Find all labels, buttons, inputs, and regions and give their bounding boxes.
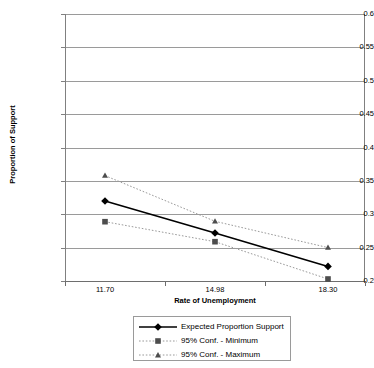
y-tick-mark-0.4 bbox=[61, 148, 65, 149]
legend-item-maximum[interactable]: 95% Conf. - Maximum bbox=[134, 348, 292, 362]
y-tick-mark-0.5 bbox=[61, 81, 65, 82]
chart-container: 0.6 0.55 0.5 0.45 0.4 0.35 0.3 0.25 0.2 … bbox=[0, 0, 374, 368]
x-tick-mark-1 bbox=[165, 281, 166, 286]
legend-item-expected[interactable]: Expected Proportion Support bbox=[134, 320, 292, 334]
y-tick-label-0.45: 0.45 bbox=[316, 110, 374, 118]
diamond-marker-icon bbox=[154, 323, 162, 331]
square-marker-icon bbox=[155, 338, 161, 344]
y-tick-label-0.35: 0.35 bbox=[316, 177, 374, 185]
x-tick-label-14.98: 14.98 bbox=[185, 285, 245, 294]
x-tick-mark-0 bbox=[65, 281, 66, 286]
y-tick-label-0.5: 0.5 bbox=[316, 77, 374, 85]
x-tick-label-18.30: 18.30 bbox=[298, 285, 358, 294]
y-tick-mark-0.45 bbox=[61, 114, 65, 115]
y-tick-mark-0.55 bbox=[61, 47, 65, 48]
y-tick-mark-0.3 bbox=[61, 214, 65, 215]
legend-swatch-maximum bbox=[138, 348, 178, 362]
y-axis-title: Proportion of Support bbox=[8, 80, 17, 210]
legend-swatch-expected bbox=[138, 320, 178, 334]
x-tick-mark-3 bbox=[365, 281, 366, 286]
y-tick-mark-0.35 bbox=[61, 181, 65, 182]
y-tick-label-0.6: 0.6 bbox=[316, 10, 374, 18]
y-tick-label-0.3: 0.3 bbox=[316, 210, 374, 218]
y-tick-mark-0.25 bbox=[61, 248, 65, 249]
legend-item-minimum[interactable]: 95% Conf. - Minimum bbox=[134, 334, 292, 348]
legend-label-minimum: 95% Conf. - Minimum bbox=[181, 334, 258, 348]
legend-label-maximum: 95% Conf. - Maximum bbox=[181, 348, 260, 362]
y-tick-label-0.25: 0.25 bbox=[316, 244, 374, 252]
legend-swatch-minimum bbox=[138, 334, 178, 348]
x-tick-mark-2 bbox=[265, 281, 266, 286]
y-tick-label-0.55: 0.55 bbox=[316, 43, 374, 51]
y-tick-label-0.4: 0.4 bbox=[316, 144, 374, 152]
chart-legend: Expected Proportion Support 95% Conf. - … bbox=[133, 316, 291, 361]
legend-label-expected: Expected Proportion Support bbox=[181, 320, 284, 334]
x-axis-title: Rate of Unemployment bbox=[65, 296, 365, 305]
x-tick-label-11.70: 11.70 bbox=[75, 285, 135, 294]
y-tick-mark-0.6 bbox=[61, 14, 65, 15]
